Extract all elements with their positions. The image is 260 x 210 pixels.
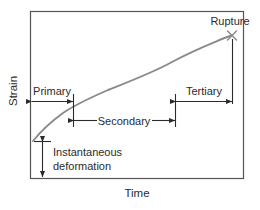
secondary-label: Secondary (98, 115, 151, 127)
creep-curve-figure: Rupture Primary Tertiary Secondary Insta… (0, 0, 260, 210)
rupture-label: Rupture (210, 15, 249, 27)
primary-label: Primary (33, 85, 71, 97)
x-axis-label: Time (124, 187, 149, 199)
tertiary-label: Tertiary (186, 85, 223, 97)
instantaneous-label-line2: deformation (53, 160, 111, 172)
y-axis-label: Strain (7, 76, 19, 106)
instantaneous-label-line1: Instantaneous (53, 146, 123, 158)
